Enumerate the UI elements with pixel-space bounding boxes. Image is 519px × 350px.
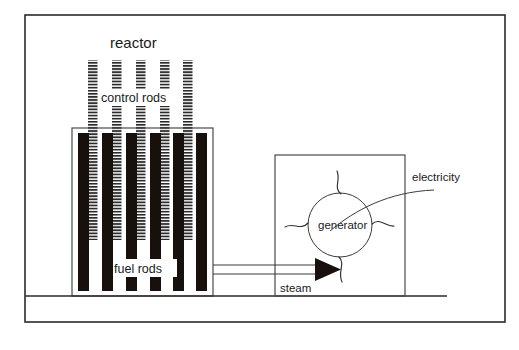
label-steam: steam [280, 282, 311, 294]
control-rod [160, 60, 170, 240]
control-rod [88, 60, 98, 240]
reactor-diagram: reactor control rods fuel rods [0, 0, 519, 350]
generator-squiggle-left [285, 223, 308, 227]
label-reactor: reactor [110, 34, 157, 51]
label-electricity: electricity [412, 171, 460, 183]
fuel-rod [196, 133, 207, 291]
label-control-rods: control rods [101, 91, 166, 105]
generator-squiggle-right [372, 221, 394, 226]
control-rod [112, 60, 122, 240]
control-rod [183, 60, 193, 240]
diagram-canvas: reactor control rods fuel rods [0, 0, 519, 350]
steam-pipe [213, 258, 341, 281]
generator-squiggle-top [337, 171, 341, 194]
fuel-rod [102, 133, 113, 291]
steam-arrowhead [315, 258, 341, 281]
fuel-rod [78, 133, 89, 291]
label-fuel-rods: fuel rods [114, 262, 162, 276]
control-rod [136, 60, 146, 240]
